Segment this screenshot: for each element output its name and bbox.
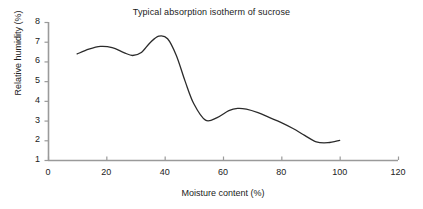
chart-figure: Typical absorption isotherm of sucrose R…	[0, 0, 423, 209]
y-tick-label: 2	[22, 135, 40, 144]
x-tick-label: 40	[150, 168, 180, 177]
y-tick-label: 5	[22, 76, 40, 85]
x-tick-label: 120	[383, 168, 413, 177]
axis-lines	[48, 22, 398, 161]
data-series-line	[77, 36, 340, 143]
plot-area	[0, 0, 423, 209]
y-axis-ticks	[45, 23, 49, 161]
x-axis-ticks	[49, 157, 399, 161]
y-tick-label: 8	[22, 17, 40, 26]
x-tick-label: 60	[208, 168, 238, 177]
y-tick-label: 4	[22, 96, 40, 105]
x-tick-label: 100	[325, 168, 355, 177]
y-tick-label: 6	[22, 56, 40, 65]
x-tick-label: 20	[91, 168, 121, 177]
x-tick-label: 80	[266, 168, 296, 177]
data-series-group	[77, 36, 340, 143]
y-tick-label: 1	[22, 155, 40, 164]
y-tick-label: 3	[22, 116, 40, 125]
x-tick-label: 0	[33, 168, 63, 177]
y-tick-label: 7	[22, 37, 40, 46]
